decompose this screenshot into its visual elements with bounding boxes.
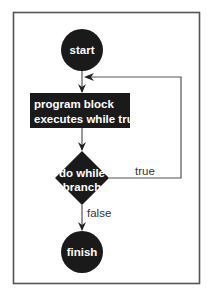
node-do-while-branch: do while branch — [55, 151, 109, 205]
node-finish-label: finish — [67, 246, 98, 258]
node-start: start — [61, 29, 103, 71]
edge-branch-false: false — [78, 205, 111, 231]
node-block-line-2: executes while true — [34, 113, 140, 125]
node-finish: finish — [61, 231, 103, 273]
edge-start-to-block — [78, 71, 86, 93]
flowchart-canvas: true false start program block executes … — [0, 0, 215, 296]
edge-label-false: false — [87, 207, 111, 219]
diagram-frame — [14, 13, 200, 284]
edge-block-to-branch — [78, 128, 86, 151]
node-block-line-1: program block — [34, 98, 114, 110]
node-branch-line-1: do while — [59, 167, 105, 179]
node-start-label: start — [70, 44, 95, 56]
node-branch-line-2: branch — [63, 181, 101, 193]
node-program-block: program block executes while true — [30, 93, 140, 128]
edge-label-true: true — [135, 165, 155, 177]
